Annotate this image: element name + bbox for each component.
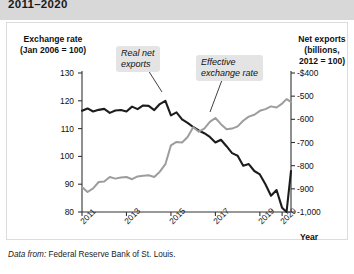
annotation-effective-exchange-rate-line1: Effective — [201, 57, 258, 68]
figure-container: 2011–2020 Exchange rate (Jan 2006 = 100)… — [0, 0, 354, 274]
annotation-effective-exchange-rate: Effective exchange rate — [196, 55, 263, 81]
series-line-effective-exchange-rate — [82, 99, 291, 192]
series-line-real-net-exports — [82, 101, 291, 212]
plot-area — [0, 0, 354, 274]
annotation-real-net-exports-line1: Real net — [121, 48, 155, 59]
tick-marks — [78, 73, 295, 216]
annotation-real-net-exports-line2: exports — [121, 59, 155, 70]
leader-line-effective-exchange-rate — [210, 80, 222, 112]
source-note: Data from: Federal Reserve Bank of St. L… — [8, 250, 176, 259]
data-series-layer — [82, 99, 291, 212]
axis-lines — [82, 71, 291, 212]
annotation-real-net-exports: Real net exports — [116, 46, 160, 72]
annotation-effective-exchange-rate-line2: exchange rate — [201, 68, 258, 79]
source-note-text: Federal Reserve Bank of St. Louis. — [49, 250, 176, 259]
leader-line-real-net-exports — [148, 70, 162, 92]
source-note-prefix: Data from: — [8, 250, 46, 259]
